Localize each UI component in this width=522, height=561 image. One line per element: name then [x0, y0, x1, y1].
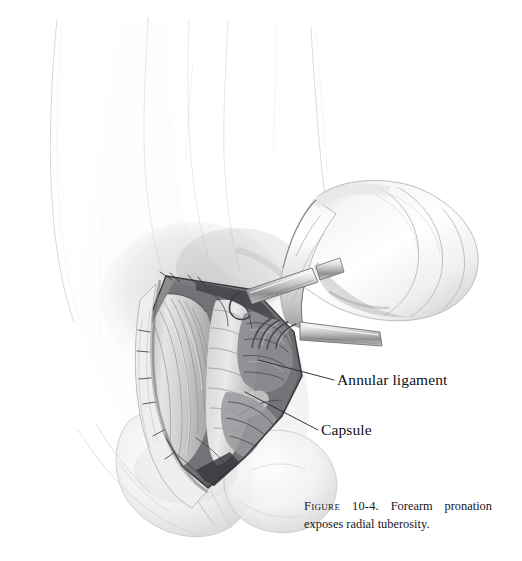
surgical-illustration [0, 0, 522, 561]
label-annular-ligament: Annular ligament [337, 372, 448, 388]
caption-figure-word: Figure [304, 499, 340, 513]
figure-caption: Figure 10-4. Forearm pronation exposes r… [304, 497, 492, 533]
figure-page: Annular ligament Capsule Figure 10-4. Fo… [0, 0, 522, 561]
caption-figure-number: 10-4. [352, 499, 379, 513]
label-capsule: Capsule [321, 422, 372, 438]
